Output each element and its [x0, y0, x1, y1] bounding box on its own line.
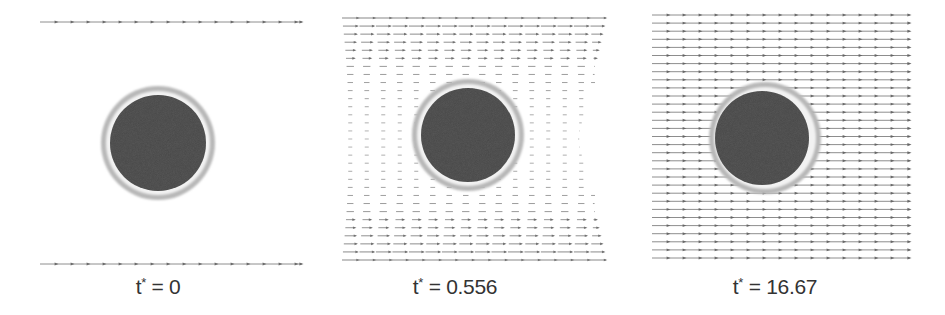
arrowhead-icon: [763, 14, 767, 17]
arrowhead-icon: [891, 216, 895, 219]
arrowhead-icon: [519, 243, 523, 246]
arrowhead-icon: [907, 30, 911, 33]
arrowhead-icon: [667, 200, 671, 203]
arrowhead-icon: [827, 135, 831, 138]
time-symbol: *: [418, 275, 423, 290]
arrowhead-icon: [468, 49, 472, 52]
arrowhead-icon: [402, 57, 406, 60]
arrowhead-icon: [843, 167, 847, 170]
arrowhead-icon: [715, 30, 719, 33]
arrowhead-icon: [779, 54, 783, 57]
arrowhead-icon: [859, 95, 863, 98]
arrowhead-icon: [683, 159, 687, 162]
arrowhead-icon: [683, 240, 687, 243]
arrowhead-icon: [763, 216, 767, 219]
arrowhead-icon: [534, 57, 538, 60]
arrowhead-icon: [859, 78, 863, 81]
arrowhead-icon: [843, 248, 847, 251]
arrowhead-icon: [715, 232, 719, 235]
arrowhead-icon: [371, 243, 375, 246]
arrowhead-icon: [875, 192, 879, 195]
arrowhead-icon: [519, 41, 523, 44]
arrowhead-icon: [420, 243, 424, 246]
arrowhead-icon: [811, 176, 815, 179]
arrowhead-icon: [594, 57, 598, 60]
arrowhead-icon: [875, 200, 879, 203]
arrowhead-icon: [263, 263, 267, 266]
arrowhead-icon: [827, 95, 831, 98]
arrowhead-icon: [683, 46, 687, 49]
arrowhead-icon: [859, 257, 863, 260]
arrowhead-icon: [875, 62, 879, 65]
arrowhead-icon: [891, 78, 895, 81]
arrowhead-icon: [537, 251, 541, 254]
arrowhead-icon: [859, 216, 863, 219]
time-symbol: *: [141, 275, 146, 290]
arrowhead-icon: [859, 192, 863, 195]
arrowhead-icon: [763, 78, 767, 81]
arrowhead-icon: [667, 176, 671, 179]
arrowhead-icon: [795, 62, 799, 65]
arrowhead-icon: [586, 25, 590, 28]
arrowhead-icon: [747, 208, 751, 211]
arrowhead-icon: [811, 192, 815, 195]
arrowhead-icon: [875, 119, 879, 122]
arrowhead-icon: [891, 192, 895, 195]
arrowhead-icon: [504, 251, 508, 254]
arrowhead-icon: [667, 257, 671, 260]
arrowhead-icon: [667, 54, 671, 57]
arrowhead-icon: [487, 25, 491, 28]
arrowhead-icon: [435, 49, 439, 52]
arrowhead-icon: [795, 224, 799, 227]
arrowhead-icon: [859, 111, 863, 114]
arrowhead-icon: [667, 232, 671, 235]
arrowhead-icon: [891, 248, 895, 251]
arrowhead-icon: [420, 33, 424, 36]
arrowhead-icon: [891, 151, 895, 154]
arrowhead-icon: [827, 127, 831, 130]
arrowhead-icon: [183, 263, 187, 266]
arrowhead-icon: [907, 159, 911, 162]
particle: [101, 86, 215, 200]
arrowhead-icon: [827, 14, 831, 17]
arrowhead-icon: [731, 78, 735, 81]
arrowhead-icon: [843, 78, 847, 81]
arrowhead-icon: [827, 30, 831, 33]
arrowhead-icon: [859, 38, 863, 41]
arrowhead-icon: [795, 46, 799, 49]
arrowhead-icon: [501, 57, 505, 60]
arrowhead-icon: [247, 263, 251, 266]
arrowhead-icon: [436, 234, 440, 237]
arrowhead-icon: [536, 33, 540, 36]
arrowhead-icon: [279, 21, 283, 24]
arrowhead-icon: [71, 21, 75, 24]
arrowhead-icon: [419, 226, 423, 229]
arrowhead-icon: [843, 38, 847, 41]
particle-core: [715, 91, 809, 185]
arrowhead-icon: [354, 234, 358, 237]
arrowhead-icon: [811, 248, 815, 251]
arrowhead-icon: [453, 243, 457, 246]
arrowhead-icon: [55, 263, 59, 266]
arrowhead-icon: [299, 20, 303, 23]
particle: [412, 79, 524, 191]
panel-t0556: [342, 17, 607, 262]
arrowhead-icon: [859, 240, 863, 243]
arrowhead-icon: [699, 95, 703, 98]
arrowhead-icon: [907, 224, 911, 227]
arrowhead-icon: [485, 226, 489, 229]
arrowhead-icon: [419, 49, 423, 52]
arrowhead-icon: [552, 41, 556, 44]
arrowhead-icon: [827, 143, 831, 146]
arrowhead-icon: [355, 25, 359, 28]
arrowhead-icon: [795, 240, 799, 243]
arrowhead-icon: [263, 21, 267, 24]
arrowhead-icon: [795, 216, 799, 219]
arrowhead-icon: [763, 38, 767, 41]
arrowhead-icon: [683, 257, 687, 260]
arrowhead-icon: [891, 95, 895, 98]
arrowhead-icon: [891, 14, 895, 17]
arrowhead-icon: [385, 218, 389, 221]
arrowhead-icon: [387, 33, 391, 36]
arrowhead-icon: [699, 38, 703, 41]
